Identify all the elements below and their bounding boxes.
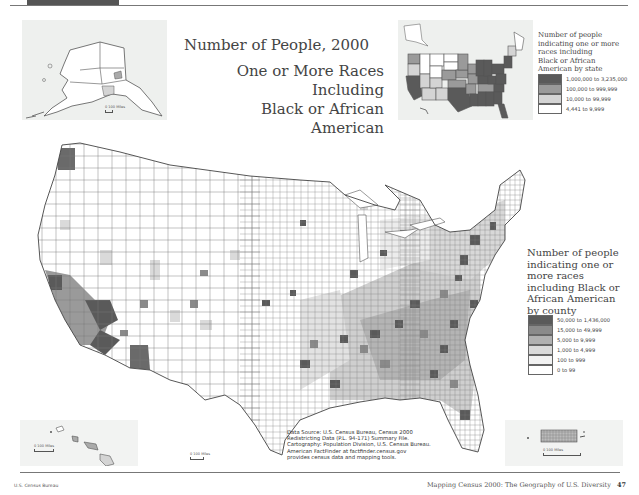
county-legend-label-6: 0 to 99 [557, 367, 575, 373]
county-legend-swatch-3 [528, 335, 553, 345]
hawaii-inset: 0 100 Miles [20, 420, 138, 466]
county-legend-label-4: 1,000 to 4,999 [557, 347, 595, 353]
map-title: Number of People, 2000 [184, 36, 369, 54]
footer-publisher: U.S. Census Bureau [14, 483, 58, 488]
county-legend-label-5: 100 to 999 [557, 357, 585, 363]
alaska-map [22, 20, 167, 120]
state-legend-label-3: 10,000 to 99,999 [566, 96, 611, 102]
county-legend-swatch-4 [528, 345, 553, 355]
data-source-note: Data Source: U.S. Census Bureau, Census … [287, 429, 447, 460]
county-legend-swatch-2 [528, 325, 553, 335]
state-legend-swatch-3 [538, 94, 562, 104]
county-choropleth-map [0, 130, 530, 470]
state-legend-swatch-2 [538, 84, 562, 94]
county-legend-title: Number of people indicating one or more … [527, 247, 620, 316]
puerto-rico-map [505, 420, 623, 466]
hawaii-scale: 0 100 Miles [34, 444, 54, 448]
header-rule [10, 5, 628, 6]
state-legend-label-4: 4,441 to 9,999 [566, 106, 604, 112]
contiguous-scale: 0 100 Miles [190, 452, 210, 456]
alaska-inset: 0 100 Miles [22, 20, 167, 120]
state-legend-swatch-1 [538, 74, 562, 84]
map-subtitle: One or More Races Including Black or Afr… [184, 62, 384, 138]
footer-rule [20, 472, 620, 473]
state-legend-title: Number of people indicating one or more … [538, 31, 619, 74]
state-legend-label-2: 100,000 to 999,999 [566, 86, 617, 92]
county-legend-swatch-6 [528, 365, 553, 375]
state-legend-label-1: 1,000,000 to 3,235,000 [566, 76, 627, 82]
hawaii-map [20, 420, 138, 466]
alaska-scale: 0 100 Miles [105, 105, 125, 109]
state-choropleth-map [398, 20, 533, 120]
state-inset [398, 20, 533, 120]
page-number: 47 [617, 481, 626, 489]
county-legend-label-3: 5,000 to 9,999 [557, 337, 595, 343]
footer-publication: Mapping Census 2000: The Geography of U.… [427, 481, 626, 489]
county-legend-swatch-5 [528, 355, 553, 365]
county-legend-swatch-1 [528, 315, 553, 325]
county-legend-label-1: 50,000 to 1,436,000 [557, 317, 610, 323]
state-legend-swatch-4 [538, 104, 562, 114]
puerto-rico-scale: 0 100 Miles [543, 448, 563, 452]
county-legend-label-2: 15,000 to 49,999 [557, 327, 602, 333]
puerto-rico-inset: 0 100 Miles [505, 420, 623, 466]
